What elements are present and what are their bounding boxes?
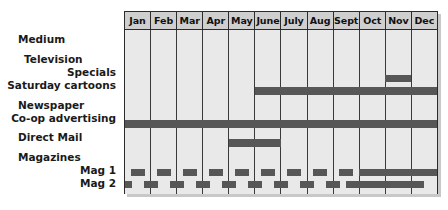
row-label-specials: Specials — [67, 66, 116, 78]
schedule-bar — [170, 181, 185, 188]
row-label-saturday-cartoons: Saturday cartoons — [7, 79, 116, 91]
schedule-bar — [346, 181, 424, 188]
schedule-bar — [339, 169, 354, 176]
schedule-bar — [359, 169, 437, 176]
schedule-bar — [222, 181, 237, 188]
schedule-bar — [125, 120, 437, 128]
media-schedule-chart: Medium Television Specials Saturday cart… — [0, 0, 448, 210]
month-header-july: July — [281, 12, 307, 29]
month-header-aug: Aug — [308, 12, 334, 29]
schedule-bar — [125, 181, 132, 188]
schedule-bar — [248, 181, 263, 188]
schedule-bar — [385, 75, 411, 82]
month-header-june: June — [255, 12, 281, 29]
row-label-magazines: Magazines — [18, 151, 81, 163]
row-label-coop-advertising: Co-op advertising — [11, 112, 116, 124]
schedule-bar — [313, 169, 328, 176]
schedule-bar — [157, 169, 172, 176]
schedule-bar — [196, 181, 211, 188]
schedule-bar — [235, 169, 250, 176]
month-header-nov: Nov — [386, 12, 412, 29]
month-header-mar: Mar — [177, 12, 203, 29]
month-header-oct: Oct — [360, 12, 386, 29]
schedule-bar — [229, 139, 281, 147]
schedule-bar — [274, 181, 289, 188]
row-label-newspaper: Newspaper — [18, 99, 84, 111]
row-label-mag-2: Mag 2 — [80, 177, 116, 189]
month-header-sept: Sept — [334, 12, 360, 29]
schedule-bar — [255, 87, 437, 95]
schedule-bars — [125, 30, 437, 194]
schedule-bar — [326, 181, 341, 188]
schedule-bar — [300, 181, 315, 188]
calendar-grid: Jan Feb Mar Apr May June July Aug Sept O… — [124, 11, 438, 194]
schedule-bar — [287, 169, 302, 176]
month-header-dec: Dec — [412, 12, 437, 29]
schedule-bar — [261, 169, 276, 176]
month-header-jan: Jan — [125, 12, 151, 29]
month-header-may: May — [229, 12, 255, 29]
row-label-television: Television — [24, 53, 83, 65]
grid-body — [125, 30, 437, 194]
schedule-bar — [131, 169, 146, 176]
schedule-bar — [209, 169, 224, 176]
month-header-row: Jan Feb Mar Apr May June July Aug Sept O… — [125, 12, 437, 30]
row-label-mag-1: Mag 1 — [80, 164, 116, 176]
schedule-bar — [144, 181, 159, 188]
row-label-direct-mail: Direct Mail — [18, 131, 82, 143]
month-header-apr: Apr — [203, 12, 229, 29]
month-header-feb: Feb — [151, 12, 177, 29]
schedule-bar — [183, 169, 198, 176]
row-label-column: Medium Television Specials Saturday cart… — [0, 0, 124, 210]
row-label-medium: Medium — [18, 33, 65, 45]
